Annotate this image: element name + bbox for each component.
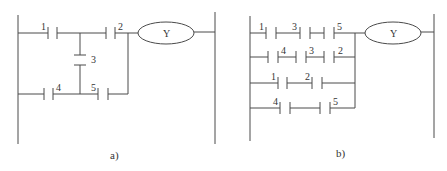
- contact-label: 1: [259, 21, 264, 32]
- contact-2: 2: [305, 71, 322, 89]
- contact-5-label: 5: [91, 82, 96, 93]
- contact-label: 5: [333, 96, 338, 107]
- contact-4: 4: [44, 82, 61, 100]
- contact-5: 5: [320, 96, 338, 114]
- contact-1: 1: [259, 21, 276, 39]
- contact-label: 3: [309, 45, 314, 56]
- contact-3: 3: [74, 54, 96, 65]
- contact-5: 5: [334, 21, 342, 39]
- rung-1: 1 3 5 Y: [250, 21, 434, 44]
- output-coil-y: Y: [138, 22, 194, 44]
- contact-2: 2: [334, 45, 343, 63]
- coil-label: Y: [163, 28, 170, 39]
- coil-label: Y: [390, 28, 397, 39]
- contact-label: 2: [338, 45, 343, 56]
- rung-4: 4 5: [250, 96, 355, 114]
- contact-label: 3: [292, 21, 297, 32]
- rung-2: 4 3 2: [250, 45, 355, 63]
- contact-2: 2: [106, 21, 123, 39]
- contact-label: 4: [273, 96, 278, 107]
- contact-3: 3: [306, 45, 314, 63]
- contact-1-label: 1: [41, 21, 46, 32]
- ladder-diagram-a: 1 2 Y 3: [18, 12, 215, 162]
- contact-label: 4: [281, 45, 286, 56]
- top-rung: 1 2 Y: [18, 21, 215, 44]
- caption-a: a): [110, 149, 119, 162]
- contact-2-label: 2: [118, 21, 123, 32]
- output-coil-y: Y: [365, 22, 421, 44]
- rung-3: 1 2: [250, 71, 355, 89]
- contact-label: 2: [305, 71, 310, 82]
- contact-1: 1: [41, 21, 57, 39]
- contact-3-label: 3: [91, 54, 96, 65]
- contact-3: 3: [292, 21, 310, 39]
- contact-4-label: 4: [56, 82, 61, 93]
- contact-5: 5: [91, 82, 108, 100]
- contact-label: 5: [337, 21, 342, 32]
- contact-label: 1: [271, 71, 276, 82]
- contact-1: 1: [271, 71, 287, 89]
- ladder-diagram-figure: 1 2 Y 3: [0, 0, 447, 171]
- ladder-diagram-b: 1 3 5 Y: [250, 14, 434, 160]
- bottom-rung: 4 5: [18, 33, 128, 100]
- caption-b: b): [336, 147, 346, 160]
- contact-4: 4: [278, 45, 286, 63]
- contact-4: 4: [273, 96, 290, 114]
